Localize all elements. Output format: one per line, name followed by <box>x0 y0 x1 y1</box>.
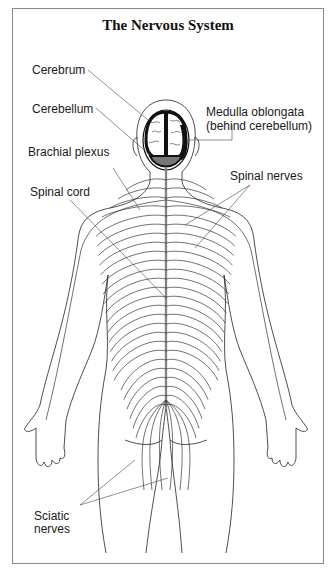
sciatic-nerve-branch <box>150 400 166 490</box>
spinal-nerve-branch <box>102 260 166 284</box>
spinal-nerve-branch <box>166 233 234 255</box>
spinal-nerve-branch <box>114 350 166 380</box>
spinal-nerve-branch <box>166 179 206 190</box>
spinal-cord-leader <box>70 200 166 298</box>
spinal-nerve-branch <box>101 251 166 275</box>
spinal-nerve-branch <box>126 179 166 190</box>
arm-nerve <box>166 200 286 420</box>
left-shoulder-arm <box>25 182 150 467</box>
label-spinal-nerves: Spinal nerves <box>230 170 303 183</box>
cerebrum-leader <box>88 70 148 120</box>
spinal-nerve-branch <box>166 296 225 323</box>
right-inner-leg <box>170 440 182 553</box>
label-cerebrum: Cerebrum <box>32 64 85 77</box>
label-sciatic-line2: nerves <box>34 523 70 536</box>
spinal-nerve-branch <box>118 188 166 199</box>
right-torso <box>224 275 234 553</box>
spinal-nerve-branch <box>166 188 214 199</box>
spinal-nerve-branch <box>107 296 166 323</box>
brain <box>143 110 189 170</box>
spinal-nerve-branch <box>166 287 226 313</box>
nervous-system-illustration <box>0 0 332 573</box>
spinal-nerve-branch <box>98 233 166 255</box>
spinal-nerve-branch <box>166 242 232 265</box>
spinal-nerve-branch <box>100 242 166 265</box>
label-spinal-cord: Spinal cord <box>30 186 90 199</box>
spinal-nerve-branch <box>166 269 229 294</box>
label-medulla-line2: (behind cerebellum) <box>206 120 312 133</box>
right-shoulder-arm <box>182 182 307 467</box>
arm-nerve <box>46 200 166 420</box>
spinal-nerve-branch <box>166 404 196 438</box>
label-medulla-line1: Medulla oblongata <box>206 106 304 119</box>
sciatic-leader <box>80 460 168 505</box>
label-brachial-plexus: Brachial plexus <box>28 146 109 159</box>
spinal-nerve-branch <box>166 350 218 380</box>
left-torso <box>98 275 108 553</box>
label-cerebellum: Cerebellum <box>32 103 93 116</box>
spinal-nerve-branch <box>103 269 166 294</box>
spinal-nerve-branch <box>166 251 231 275</box>
spinal-nerve-branch <box>166 278 228 303</box>
spinal-nerve-branch <box>106 287 166 313</box>
spinal-nerves-leader <box>185 185 250 248</box>
spinal-nerve-branch <box>166 260 230 284</box>
spinal-nerve-branch <box>104 278 166 303</box>
spinal-nerve-branch <box>136 404 166 438</box>
